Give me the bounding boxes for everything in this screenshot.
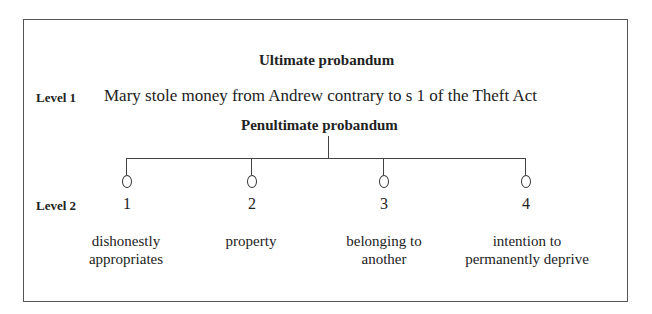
element-label-4-line2: permanently deprive	[442, 250, 612, 268]
element-label-1-line1: dishonestly	[89, 232, 163, 250]
element-label-4-line1: intention to	[442, 232, 612, 250]
branch-line	[126, 158, 526, 159]
drop-line-1	[126, 158, 127, 175]
node-circle-4	[521, 175, 531, 188]
level1-statement: Mary stole money from Andrew contrary to…	[104, 86, 537, 106]
level1-label: Level 1	[36, 90, 76, 106]
element-number-3: 3	[380, 195, 388, 213]
element-label-2-line1: property	[226, 232, 277, 250]
element-number-2: 2	[248, 195, 256, 213]
drop-line-4	[525, 158, 526, 175]
drop-line-3	[383, 158, 384, 175]
stem-line	[328, 136, 329, 159]
element-number-1: 1	[123, 195, 131, 213]
node-circle-2	[247, 175, 257, 188]
node-circle-1	[122, 175, 132, 188]
penultimate-probandum-title: Penultimate probandum	[241, 117, 398, 134]
element-label-3-line2: another	[346, 250, 421, 268]
element-label-1: dishonestly appropriates	[89, 232, 163, 268]
drop-line-2	[251, 158, 252, 175]
element-label-1-line2: appropriates	[89, 250, 163, 268]
element-label-3: belonging to another	[346, 232, 421, 268]
ultimate-probandum-title: Ultimate probandum	[259, 52, 394, 69]
node-circle-3	[379, 175, 389, 188]
element-number-4: 4	[522, 195, 530, 213]
element-label-2: property	[226, 232, 277, 250]
level2-label: Level 2	[36, 198, 76, 214]
element-label-3-line1: belonging to	[346, 232, 421, 250]
element-label-4: intention to permanently deprive	[442, 232, 612, 268]
